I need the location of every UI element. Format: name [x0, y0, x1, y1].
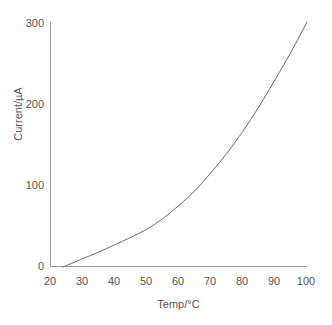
x-tick-label-100: 100 [286, 276, 326, 287]
chart-figure: Current/µA 300 200 100 0 20 30 40 50 60 … [0, 0, 332, 325]
curve-path [63, 22, 307, 267]
y-axis-title: Current/µA [12, 54, 24, 174]
y-tick-label-300: 300 [4, 18, 44, 29]
x-axis-title: Temp/°C [50, 298, 307, 310]
y-tick-label-100: 100 [4, 180, 44, 191]
clipped-caption [0, 317, 332, 325]
y-tick-label-200: 200 [4, 99, 44, 110]
current-temperature-curve [50, 22, 307, 267]
y-tick-label-0: 0 [4, 261, 44, 272]
